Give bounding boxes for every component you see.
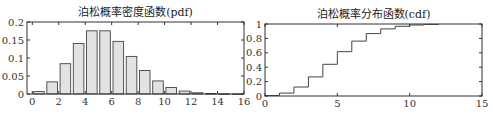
x-tick-label: 10	[158, 96, 171, 107]
bar	[73, 43, 84, 94]
y-tick-label: 0.05	[2, 71, 24, 82]
bar	[100, 31, 111, 94]
x-tick-label: 16	[238, 96, 251, 107]
figure: 泊松概率密度函数(pdf)024681012141600.050.10.150.…	[0, 0, 493, 121]
x-tick-label: 0	[262, 98, 268, 109]
x-tick-label: 15	[476, 98, 489, 109]
y-tick-label: 0	[256, 91, 262, 102]
y-tick-label: 0.6	[246, 47, 262, 58]
y-tick-label: 0.15	[2, 35, 24, 46]
x-tick-label: 4	[82, 96, 88, 107]
y-tick-label: 0.8	[246, 33, 262, 44]
x-tick-label: 6	[108, 96, 114, 107]
bar	[166, 87, 177, 94]
x-tick-label: 5	[334, 98, 340, 109]
bar	[113, 41, 124, 94]
x-tick-label: 10	[403, 98, 416, 109]
y-tick-label: 0.2	[246, 76, 262, 87]
chart-cdf: 泊松概率分布函数(cdf)05101500.20.40.60.81	[246, 7, 488, 109]
x-tick-label: 0	[29, 96, 35, 107]
chart-title: 泊松概率分布函数(cdf)	[317, 7, 431, 21]
bar	[153, 81, 164, 94]
chart-title: 泊松概率密度函数(pdf)	[78, 5, 193, 19]
y-tick-label: 0	[18, 89, 24, 100]
bar	[47, 82, 58, 94]
y-tick-label: 1	[256, 19, 262, 30]
x-tick-label: 14	[211, 96, 224, 107]
chart-pdf: 泊松概率密度函数(pdf)024681012141600.050.10.150.…	[2, 5, 251, 107]
y-tick-label: 0.1	[8, 53, 24, 64]
y-tick-label: 0.4	[246, 62, 262, 73]
cdf-stairs-line	[265, 24, 439, 96]
axes-box	[265, 24, 482, 96]
x-tick-label: 8	[135, 96, 141, 107]
bar	[87, 31, 98, 94]
bar	[139, 70, 150, 94]
x-tick-label: 12	[185, 96, 198, 107]
bar	[60, 64, 71, 94]
bar	[126, 56, 137, 94]
y-tick-label: 0.2	[8, 17, 24, 28]
x-tick-label: 2	[56, 96, 62, 107]
